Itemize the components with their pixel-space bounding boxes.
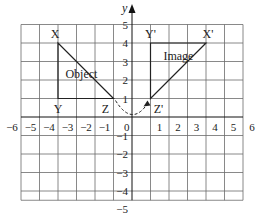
x-tick-label: −3 xyxy=(62,121,74,133)
y-tick-label: 3 xyxy=(123,56,129,68)
rotation-arrowhead-icon xyxy=(144,101,151,107)
x-tick-label: −5 xyxy=(25,121,37,133)
y-tick-label: −2 xyxy=(116,148,128,160)
x-tick-label: 6 xyxy=(249,121,255,133)
y-tick-label: −5 xyxy=(116,203,128,215)
coordinate-grid-diagram: y −6−5−4−3−2−1012345654321−1−2−3−4−5 XYZ… xyxy=(0,0,261,215)
vertex-label: X' xyxy=(203,27,214,41)
y-tick-label: −4 xyxy=(116,185,128,197)
y-tick-label: 1 xyxy=(123,93,129,105)
y-tick-label: 5 xyxy=(123,19,129,31)
x-tick-label: −6 xyxy=(6,121,18,133)
vertex-label: Z xyxy=(102,102,109,116)
x-tick-label: 5 xyxy=(231,121,237,133)
x-tick-label: −1 xyxy=(99,121,111,133)
x-tick-label: 2 xyxy=(175,121,181,133)
vertex-label: Y xyxy=(54,102,63,116)
vertex-label: Z' xyxy=(154,102,164,116)
y-tick-label: 4 xyxy=(123,37,129,49)
x-tick-label: 3 xyxy=(194,121,200,133)
x-tick-label: −4 xyxy=(43,121,55,133)
y-tick-label: −1 xyxy=(116,130,128,142)
vertex-label: X xyxy=(51,27,60,41)
x-tick-label: −2 xyxy=(80,121,92,133)
vertex-label: Y' xyxy=(145,27,156,41)
y-tick-label: 2 xyxy=(123,74,129,86)
x-tick-label: 1 xyxy=(157,121,163,133)
y-axis-label: y xyxy=(121,1,128,15)
y-tick-label: −3 xyxy=(116,167,128,179)
image-label: Image xyxy=(163,49,193,63)
object-label: Object xyxy=(65,67,98,81)
y-axis-arrow-icon xyxy=(129,4,136,13)
x-tick-label: 4 xyxy=(212,121,218,133)
